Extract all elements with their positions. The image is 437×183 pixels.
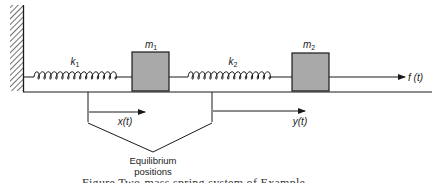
displacement-x-label: x(t)	[118, 116, 132, 127]
spring-k1-label: k1	[71, 56, 80, 70]
displacement-y-label: y(t)	[293, 116, 307, 127]
mass-m2	[292, 53, 329, 91]
force-label: f (t)	[408, 72, 423, 83]
wall	[10, 5, 24, 92]
diagram-canvas: m1 m2 k1 k2 f (t) x(t) y(t) Equilibrium …	[0, 0, 437, 183]
mass-m2-label: m2	[303, 39, 315, 53]
spring-k2-label: k2	[229, 56, 238, 70]
equilibrium-pointer	[88, 123, 212, 152]
mass-m1-label: m1	[145, 39, 157, 53]
spring-k1	[24, 72, 132, 80]
spring-k2	[169, 72, 292, 80]
equilibrium-label-line1: Equilibrium	[130, 155, 177, 166]
figure-caption-clipped: Figure Two-mass spring system of Example	[82, 176, 305, 183]
mass-m1	[132, 52, 169, 91]
mechanical-diagram	[0, 0, 437, 183]
